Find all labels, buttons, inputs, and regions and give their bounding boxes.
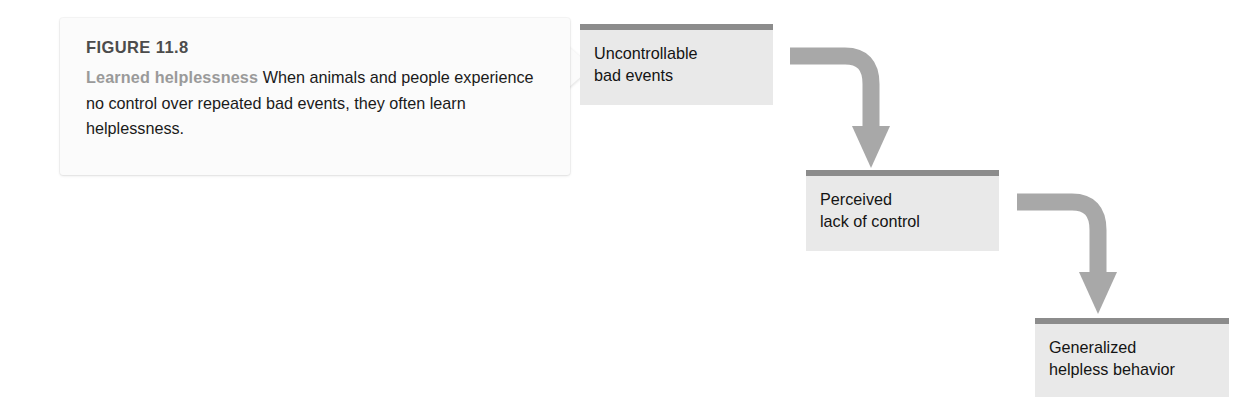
- figure-canvas: FIGURE 11.8 Learned helplessness When an…: [0, 0, 1250, 404]
- flow-box-uncontrollable-bad-events: Uncontrollable bad events: [580, 24, 773, 105]
- flow-box-label: Generalized helpless behavior: [1049, 337, 1229, 381]
- flow-box-label: Uncontrollable bad events: [594, 43, 773, 87]
- flow-box-generalized-helpless-behavior: Generalized helpless behavior: [1035, 318, 1229, 397]
- flow-arrow-2-icon: [1017, 202, 1117, 314]
- figure-number-label: FIGURE 11.8: [86, 38, 544, 56]
- flow-box-perceived-lack-of-control: Perceived lack of control: [806, 170, 999, 251]
- flow-arrow-1-icon: [790, 56, 890, 168]
- flow-box-label: Perceived lack of control: [820, 189, 999, 233]
- figure-caption-text: Learned helplessness When animals and pe…: [86, 65, 544, 142]
- figure-caption-lead-in: Learned helplessness: [86, 68, 258, 86]
- figure-caption-callout: FIGURE 11.8 Learned helplessness When an…: [60, 18, 570, 175]
